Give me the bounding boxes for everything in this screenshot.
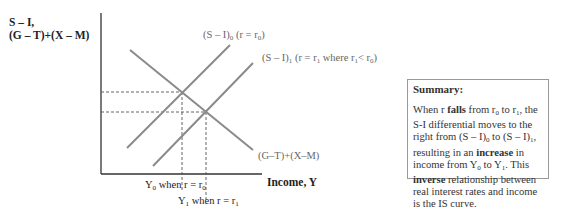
- summary-body: When r falls from r0 to r1, the S-I diff…: [413, 104, 546, 210]
- label-y1: Y1 when r = r1: [178, 195, 239, 208]
- summary-emphasis: increase: [476, 147, 513, 158]
- label-text: (r = r: [292, 52, 316, 63]
- curve-s-i-1: [153, 63, 253, 166]
- summary-text: to Y: [481, 159, 502, 170]
- summary-text: When r: [413, 104, 447, 115]
- summary-text: from r: [466, 104, 495, 115]
- label-y0: Y0 when r = r0: [145, 179, 206, 192]
- label-s-i-0: (S – I)0 (r = r0): [203, 29, 265, 42]
- label-text: ): [374, 52, 378, 63]
- label-text: when r = r: [156, 179, 202, 190]
- label-sub: 0: [202, 184, 206, 192]
- curve-g-t-x-m: [130, 50, 253, 150]
- y-axis-label-line2: (G – T)+(X – M): [9, 29, 89, 42]
- x-axis-label: Income, Y: [267, 176, 317, 188]
- label-sub: 1: [235, 200, 239, 208]
- label-text: (r = r: [233, 29, 257, 40]
- label-s-i-1: (S – I)1 (r = r1 where r1< r0): [262, 52, 377, 65]
- y-axis-label-line1: S – I,: [9, 16, 89, 29]
- label-text: when r = r: [189, 195, 235, 206]
- summary-text: to (S – I): [489, 131, 530, 142]
- summary-emphasis: inverse: [413, 174, 445, 185]
- summary-text: . This: [505, 159, 529, 170]
- label-text: Y: [178, 195, 186, 206]
- label-text: where r: [320, 52, 354, 63]
- label-text: ): [261, 29, 265, 40]
- label-text: < r: [358, 52, 370, 63]
- summary-title: Summary:: [413, 84, 546, 96]
- summary-box: Summary: When r falls from r0 to r1, the…: [407, 79, 549, 179]
- summary-text: to r: [499, 104, 516, 115]
- label-text: (S – I): [203, 29, 230, 40]
- label-text: Y: [145, 179, 153, 190]
- label-g-t-x-m: (G–T)+(X–M): [258, 150, 319, 161]
- y-axis-label: S – I, (G – T)+(X – M): [9, 16, 89, 42]
- summary-emphasis: falls: [447, 104, 466, 115]
- label-text: (S – I): [262, 52, 289, 63]
